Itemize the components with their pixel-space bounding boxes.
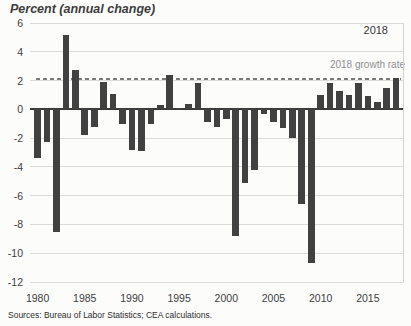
plot-right-border — [403, 23, 404, 282]
gridline — [30, 51, 403, 52]
x-axis-tick-label: 2000 — [208, 292, 244, 304]
bar-1983 — [63, 35, 70, 110]
x-axis-tick-label: 2005 — [255, 292, 291, 304]
x-axis-tick-label: 1980 — [20, 292, 56, 304]
gridline — [30, 166, 403, 167]
bar-2011 — [327, 83, 334, 109]
bar-1995 — [176, 108, 183, 109]
y-axis-tick-label: -8 — [0, 218, 23, 230]
gridline — [30, 195, 403, 196]
x-axis-tick-label: 1995 — [161, 292, 197, 304]
x-axis-tick-label: 1990 — [114, 292, 150, 304]
gridline — [30, 282, 403, 283]
bar-2003 — [251, 109, 258, 169]
plot-area: 6420-2-4-6-8-10-121980198519901995200020… — [0, 0, 411, 326]
x-axis-tick-label: 2010 — [303, 292, 339, 304]
bar-1999 — [214, 109, 221, 126]
bar-1982 — [53, 109, 60, 231]
y-axis-tick-label: 6 — [0, 17, 23, 29]
bar-1988 — [110, 94, 117, 110]
dashed-reference-line — [36, 78, 401, 80]
bar-2005 — [270, 109, 277, 122]
gridline — [30, 224, 403, 225]
y-axis-tick-label: 0 — [0, 103, 23, 115]
bar-2010 — [317, 95, 324, 109]
gridline — [30, 138, 403, 139]
bar-1992 — [148, 109, 155, 123]
bar-1981 — [44, 109, 51, 142]
bar-2004 — [261, 109, 268, 113]
source-note: Sources: Bureau of Labor Statistics; CEA… — [8, 310, 212, 320]
bar-1984 — [72, 70, 79, 109]
bar-2008 — [298, 109, 305, 204]
bar-2017 — [383, 88, 390, 110]
bar-1994 — [166, 75, 173, 110]
y-axis-tick-label: -4 — [0, 161, 23, 173]
bar-1990 — [129, 109, 136, 149]
bar-1998 — [204, 109, 211, 122]
bar-1997 — [195, 83, 202, 109]
bar-1989 — [119, 109, 126, 123]
chart-figure: Percent (annual change) 2018 2018 growth… — [0, 0, 411, 326]
y-axis-tick-label: 4 — [0, 46, 23, 58]
bar-1980 — [34, 109, 41, 158]
bar-1986 — [91, 109, 98, 126]
gridline — [30, 80, 403, 81]
bar-2000 — [223, 109, 230, 119]
bar-1996 — [185, 104, 192, 110]
bar-1993 — [157, 105, 164, 109]
y-axis-tick-label: 2 — [0, 75, 23, 87]
bar-2013 — [346, 95, 353, 109]
bar-2006 — [280, 109, 287, 128]
bar-1991 — [138, 109, 145, 151]
x-axis-tick-label: 2015 — [350, 292, 386, 304]
gridline — [30, 253, 403, 254]
bar-2009 — [308, 109, 315, 263]
bar-2016 — [374, 102, 381, 109]
bar-2018 — [393, 78, 400, 110]
y-axis-tick-label: -2 — [0, 132, 23, 144]
bar-2015 — [365, 96, 372, 109]
bar-1985 — [81, 109, 88, 135]
bar-2012 — [336, 91, 343, 110]
gridline — [30, 23, 403, 24]
x-axis-tick-label: 1985 — [67, 292, 103, 304]
bar-2001 — [232, 109, 239, 236]
y-axis-tick-label: -6 — [0, 190, 23, 202]
bar-1987 — [100, 82, 107, 109]
y-axis-tick-label: -10 — [0, 247, 23, 259]
bar-2014 — [355, 83, 362, 109]
bar-2002 — [242, 109, 249, 182]
bar-2007 — [289, 109, 296, 138]
y-axis-tick-label: -12 — [0, 276, 23, 288]
